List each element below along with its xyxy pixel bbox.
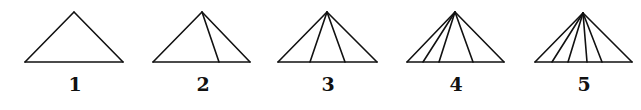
triangle-inner-line (455, 12, 473, 62)
triangle-figure-5: 5 (535, 13, 632, 95)
triangle-1-lines (25, 12, 123, 62)
triangle-inner-line (202, 12, 219, 62)
triangle-left-side-line (153, 12, 202, 62)
triangle-right-side-line (74, 12, 123, 62)
triangle-2-label: 2 (196, 73, 209, 95)
triangle-right-side-line (583, 13, 632, 62)
triangle-left-side-line (278, 12, 327, 62)
triangle-inner-line (423, 12, 455, 62)
triangle-4-lines (407, 12, 504, 62)
triangle-figure-4: 4 (407, 12, 504, 95)
triangle-1-label: 1 (68, 73, 81, 95)
triangle-3-lines (278, 12, 377, 62)
triangle-sequence-diagram: 1 2 3 4 5 (0, 0, 641, 110)
triangle-2-lines (153, 12, 250, 62)
triangle-right-side-line (202, 12, 250, 62)
triangle-sequence-figure: 1 2 3 4 5 (0, 0, 641, 110)
triangle-inner-line (327, 12, 345, 62)
triangle-right-side-line (327, 12, 377, 62)
triangle-figure-1: 1 (25, 12, 123, 95)
triangle-figure-2: 2 (153, 12, 250, 95)
triangle-5-lines (535, 13, 632, 62)
triangle-4-label: 4 (449, 73, 462, 95)
triangle-5-label: 5 (577, 73, 590, 95)
triangle-left-side-line (25, 12, 74, 62)
triangle-3-label: 3 (321, 73, 334, 95)
triangle-inner-line (310, 12, 327, 62)
triangle-figure-3: 3 (278, 12, 377, 95)
triangle-right-side-line (455, 12, 504, 62)
triangle-inner-line (552, 13, 583, 62)
